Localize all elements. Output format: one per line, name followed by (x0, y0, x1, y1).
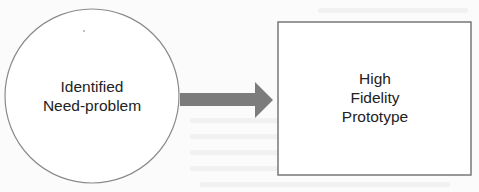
prototype-label: High Fidelity Prototype (280, 69, 470, 126)
speck (83, 30, 85, 32)
label-line: Prototype (280, 107, 470, 126)
arrow-right-icon (180, 82, 273, 118)
label-line: Identified (22, 77, 162, 96)
label-line: Need-problem (22, 96, 162, 115)
label-line: High (280, 69, 470, 88)
label-line: Fidelity (280, 88, 470, 107)
need-problem-label: Identified Need-problem (22, 77, 162, 115)
